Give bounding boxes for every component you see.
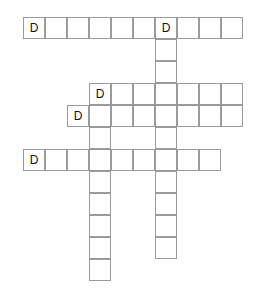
crossword-cell[interactable] bbox=[133, 105, 155, 127]
cell-letter: D bbox=[162, 22, 171, 34]
cell-letter: D bbox=[30, 154, 39, 166]
crossword-cell[interactable] bbox=[133, 83, 155, 105]
cell-letter: D bbox=[74, 110, 83, 122]
crossword-cell[interactable] bbox=[89, 149, 111, 171]
crossword-cell-filled[interactable]: D bbox=[89, 83, 111, 105]
crossword-cell[interactable] bbox=[89, 237, 111, 259]
crossword-cell[interactable] bbox=[155, 39, 177, 61]
crossword-cell[interactable] bbox=[155, 105, 177, 127]
crossword-cell-filled[interactable]: D bbox=[67, 105, 89, 127]
crossword-cell[interactable] bbox=[177, 83, 199, 105]
crossword-cell[interactable] bbox=[111, 17, 133, 39]
crossword-grid: DDDDD bbox=[0, 0, 258, 289]
crossword-cell[interactable] bbox=[89, 193, 111, 215]
crossword-cell[interactable] bbox=[111, 83, 133, 105]
crossword-cell[interactable] bbox=[45, 149, 67, 171]
crossword-cell-filled[interactable]: D bbox=[155, 17, 177, 39]
crossword-cell[interactable] bbox=[89, 17, 111, 39]
crossword-cell[interactable] bbox=[155, 237, 177, 259]
crossword-cell[interactable] bbox=[221, 17, 243, 39]
crossword-cell[interactable] bbox=[177, 149, 199, 171]
crossword-cell[interactable] bbox=[155, 127, 177, 149]
crossword-cell[interactable] bbox=[155, 83, 177, 105]
crossword-cell[interactable] bbox=[45, 17, 67, 39]
crossword-cell[interactable] bbox=[89, 259, 111, 281]
crossword-cell[interactable] bbox=[155, 171, 177, 193]
crossword-cell[interactable] bbox=[177, 17, 199, 39]
crossword-cell[interactable] bbox=[67, 17, 89, 39]
crossword-cell[interactable] bbox=[199, 149, 221, 171]
cell-letter: D bbox=[96, 88, 105, 100]
crossword-cell[interactable] bbox=[89, 127, 111, 149]
crossword-cell[interactable] bbox=[221, 83, 243, 105]
cell-letter: D bbox=[30, 22, 39, 34]
crossword-cell[interactable] bbox=[155, 61, 177, 83]
crossword-cell[interactable] bbox=[133, 149, 155, 171]
crossword-cell[interactable] bbox=[177, 105, 199, 127]
crossword-cell[interactable] bbox=[133, 17, 155, 39]
crossword-cell[interactable] bbox=[111, 105, 133, 127]
crossword-cell[interactable] bbox=[221, 105, 243, 127]
crossword-cell[interactable] bbox=[199, 83, 221, 105]
crossword-cell[interactable] bbox=[155, 215, 177, 237]
crossword-cell[interactable] bbox=[111, 149, 133, 171]
crossword-cell-filled[interactable]: D bbox=[23, 149, 45, 171]
crossword-cell[interactable] bbox=[67, 149, 89, 171]
crossword-cell[interactable] bbox=[89, 215, 111, 237]
crossword-cell-filled[interactable]: D bbox=[23, 17, 45, 39]
crossword-cell[interactable] bbox=[155, 193, 177, 215]
crossword-cell[interactable] bbox=[89, 105, 111, 127]
crossword-cell[interactable] bbox=[199, 105, 221, 127]
crossword-cell[interactable] bbox=[155, 149, 177, 171]
crossword-cell[interactable] bbox=[199, 17, 221, 39]
crossword-cell[interactable] bbox=[89, 171, 111, 193]
